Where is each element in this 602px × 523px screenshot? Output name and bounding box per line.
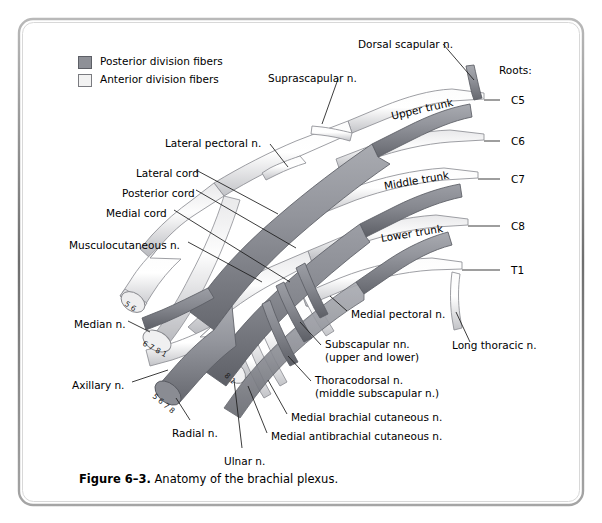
label-subscapular-nn-line2: (upper and lower) [325,351,419,364]
label-lateral-cord: Lateral cord [136,167,199,180]
legend-label-anterior: Anterior division fibers [100,73,219,85]
label-medial-cord: Medial cord [106,207,167,220]
label-thoracodorsal-n-line1: Thoracodorsal n. [315,374,439,387]
roots-heading: Roots: [499,64,532,77]
label-dorsal-scapular-n: Dorsal scapular n. [358,38,453,51]
root-label-c5: C5 [511,94,525,107]
label-lateral-pectoral-n: Lateral pectoral n. [165,137,261,150]
label-subscapular-nn: Subscapular nn. (upper and lower) [325,338,419,363]
label-axillary-n: Axillary n. [72,379,124,392]
legend-label-posterior: Posterior division fibers [100,55,223,67]
label-radial-n: Radial n. [172,427,218,440]
label-long-thoracic-n: Long thoracic n. [452,339,537,352]
posterior-division-fibers [142,65,482,418]
label-median-n: Median n. [74,318,126,331]
label-suprascapular-n: Suprascapular n. [268,72,357,85]
label-thoracodorsal-n-line2: (middle subscapular n.) [315,387,439,400]
figure-caption-number: Figure 6–3. [79,472,151,486]
label-ulnar-n: Ulnar n. [224,455,265,468]
label-medial-pectoral-n: Medial pectoral n. [351,308,445,321]
figure-caption-text: Anatomy of the brachial plexus. [151,472,338,486]
label-musculocutaneous-n: Musculocutaneous n. [69,239,180,252]
root-label-c6: C6 [511,135,525,148]
root-label-t1: T1 [511,264,524,277]
label-medial-brachial-cutaneous-n: Medial brachial cutaneous n. [291,411,442,424]
legend-swatch-anterior [78,74,92,87]
label-posterior-cord: Posterior cord [122,187,195,200]
root-label-c8: C8 [511,220,525,233]
label-subscapular-nn-line1: Subscapular nn. [325,338,419,351]
label-thoracodorsal-n: Thoracodorsal n. (middle subscapular n.) [315,374,439,399]
legend-swatch-posterior [78,56,92,69]
label-medial-antibrachial-cutaneous-n: Medial antibrachial cutaneous n. [271,430,442,443]
figure-page: 5 6 6 7 8 1 5 6 7 8 8 1 Posterior divisi… [0,0,602,523]
figure-caption: Figure 6–3. Anatomy of the brachial plex… [79,472,338,486]
root-label-c7: C7 [511,173,525,186]
